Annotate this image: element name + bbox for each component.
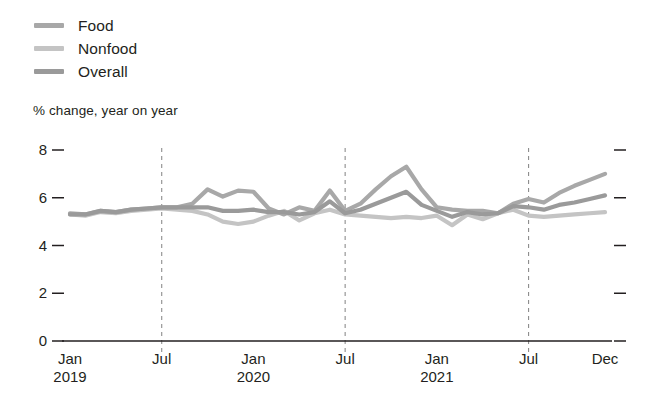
plot-area [0,0,646,405]
y-tick-label-6: 6 [27,190,47,205]
y-tick-label-0: 0 [27,333,47,348]
x-tick-label-jul-18: Jul [336,350,355,368]
x-tick-month: Jul [336,350,355,367]
chart-figure: Food Nonfood Overall % change, year on y… [0,0,646,405]
x-tick-month: Jan [58,350,82,367]
x-tick-month: Dec [592,350,619,367]
x-tick-label-dec-35: Dec [592,350,619,368]
dashed-separators [162,148,529,352]
y-tick-label-2: 2 [27,285,47,300]
y-tick-label-8: 8 [27,142,47,157]
y-tick-label-4: 4 [27,238,47,253]
x-tick-year: 2021 [420,368,453,386]
y-axis-ticks-left [52,150,64,341]
x-tick-label-jul-6: Jul [152,350,171,368]
x-tick-label-jan-2019: Jan2019 [53,350,86,385]
x-tick-month: Jan [241,350,265,367]
x-tick-label-jan-2021: Jan2021 [420,350,453,385]
x-tick-month: Jan [425,350,449,367]
x-tick-label-jul-30: Jul [519,350,538,368]
y-axis-ticks-right [614,150,626,341]
data-lines [70,167,605,226]
x-tick-month: Jul [152,350,171,367]
x-tick-label-jan-2020: Jan2020 [237,350,270,385]
x-tick-year: 2020 [237,368,270,386]
series-line-nonfood [70,208,605,225]
x-tick-month: Jul [519,350,538,367]
x-tick-year: 2019 [53,368,86,386]
